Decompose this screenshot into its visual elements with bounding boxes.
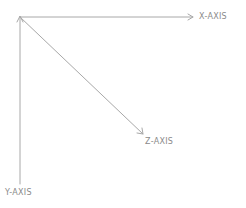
x-axis-label: X-AXIS (199, 12, 227, 21)
z-axis-label: Z-AXIS (145, 137, 173, 146)
y-axis-label: Y-AXIS (5, 188, 32, 197)
z-axis-line (20, 17, 143, 134)
axes-canvas (0, 0, 246, 208)
axes-diagram: X-AXIS Z-AXIS Y-AXIS (0, 0, 246, 208)
